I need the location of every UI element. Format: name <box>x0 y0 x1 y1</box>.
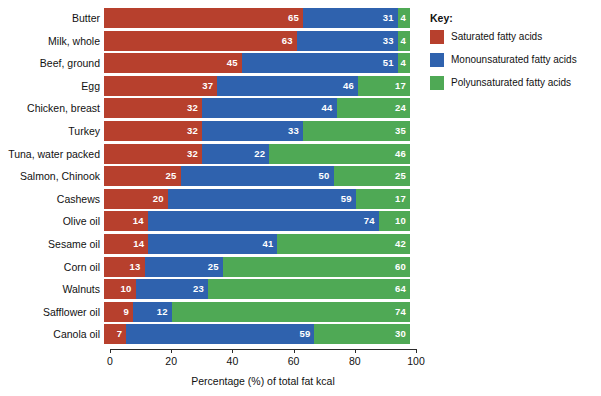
segment-value-label: 14 <box>133 216 148 226</box>
segment-monounsaturated: 41 <box>148 234 277 254</box>
segment-polyunsaturated: 60 <box>223 257 410 277</box>
chart-row: Canola oil75930 <box>0 324 420 344</box>
segment-polyunsaturated: 4 <box>398 53 410 73</box>
legend-items: Saturated fatty acidsMonounsaturated fat… <box>430 30 598 90</box>
x-tick-label: 40 <box>227 355 239 367</box>
category-label: Walnuts <box>0 283 104 295</box>
segment-value-label: 50 <box>319 171 334 181</box>
segment-saturated: 9 <box>104 302 133 322</box>
segment-value-label: 25 <box>208 262 223 272</box>
chart-row: Olive oil147410 <box>0 211 420 231</box>
x-axis-line <box>110 349 416 350</box>
segment-monounsaturated: 31 <box>303 8 398 28</box>
segment-value-label: 7 <box>117 329 126 339</box>
stacked-bar-chart: Butter65314Milk, whole63334Beef, ground4… <box>0 0 601 396</box>
segment-value-label: 35 <box>395 126 410 136</box>
stacked-bar: 323335 <box>104 121 410 141</box>
x-tick-mark <box>232 349 233 353</box>
category-label: Chicken, breast <box>0 102 104 114</box>
chart-row: Safflower oil91274 <box>0 302 420 322</box>
legend-item-label: Monounsaturated fatty acids <box>451 54 577 66</box>
category-label: Cashews <box>0 193 104 205</box>
segment-monounsaturated: 74 <box>148 211 379 231</box>
segment-polyunsaturated: 74 <box>172 302 410 322</box>
stacked-bar: 322246 <box>104 144 410 164</box>
category-label: Sesame oil <box>0 238 104 250</box>
segment-polyunsaturated: 4 <box>398 31 410 51</box>
segment-polyunsaturated: 4 <box>398 8 410 28</box>
segment-value-label: 22 <box>254 149 269 159</box>
chart-row: Cashews205917 <box>0 189 420 209</box>
chart-row: Tuna, water packed322246 <box>0 144 420 164</box>
segment-value-label: 20 <box>153 194 168 204</box>
stacked-bar: 102364 <box>104 279 410 299</box>
segment-monounsaturated: 50 <box>181 166 334 186</box>
category-label: Milk, whole <box>0 35 104 47</box>
segment-monounsaturated: 33 <box>202 121 303 141</box>
x-tick-label: 100 <box>407 355 425 367</box>
segment-value-label: 4 <box>400 58 409 68</box>
segment-value-label: 37 <box>202 81 217 91</box>
segment-polyunsaturated: 30 <box>314 324 410 344</box>
segment-value-label: 4 <box>400 36 409 46</box>
chart-row: Walnuts102364 <box>0 279 420 299</box>
segment-monounsaturated: 12 <box>133 302 172 322</box>
chart-row: Chicken, breast324424 <box>0 98 420 118</box>
segment-polyunsaturated: 46 <box>269 144 410 164</box>
segment-monounsaturated: 22 <box>202 144 269 164</box>
segment-value-label: 65 <box>288 13 303 23</box>
segment-saturated: 13 <box>104 257 145 277</box>
segment-value-label: 45 <box>227 58 242 68</box>
category-label: Corn oil <box>0 261 104 273</box>
segment-value-label: 10 <box>395 216 410 226</box>
chart-row: Beef, ground45514 <box>0 53 420 73</box>
chart-row: Egg374617 <box>0 76 420 96</box>
segment-monounsaturated: 59 <box>168 189 356 209</box>
segment-value-label: 32 <box>187 126 202 136</box>
chart-row: Butter65314 <box>0 8 420 28</box>
stacked-bar: 65314 <box>104 8 410 28</box>
segment-value-label: 41 <box>263 239 278 249</box>
chart-row: Sesame oil144142 <box>0 234 420 254</box>
segment-value-label: 46 <box>343 81 358 91</box>
segment-saturated: 45 <box>104 53 242 73</box>
chart-row: Milk, whole63334 <box>0 31 420 51</box>
segment-value-label: 4 <box>401 13 410 23</box>
legend-item: Polyunsaturated fatty acids <box>430 76 598 90</box>
segment-value-label: 63 <box>282 36 297 46</box>
category-label: Egg <box>0 80 104 92</box>
legend-item: Monounsaturated fatty acids <box>430 53 598 67</box>
category-label: Turkey <box>0 125 104 137</box>
stacked-bar: 144142 <box>104 234 410 254</box>
segment-value-label: 59 <box>341 194 356 204</box>
segment-value-label: 17 <box>395 194 410 204</box>
category-label: Safflower oil <box>0 306 104 318</box>
segment-saturated: 65 <box>104 8 303 28</box>
category-label: Butter <box>0 12 104 24</box>
legend-title: Key: <box>430 12 598 24</box>
segment-value-label: 14 <box>133 239 148 249</box>
category-label: Olive oil <box>0 215 104 227</box>
segment-value-label: 42 <box>395 239 410 249</box>
segment-value-label: 25 <box>166 171 181 181</box>
segment-polyunsaturated: 35 <box>303 121 410 141</box>
segment-value-label: 74 <box>395 307 410 317</box>
segment-value-label: 51 <box>383 58 398 68</box>
stacked-bar: 75930 <box>104 324 410 344</box>
segment-monounsaturated: 46 <box>217 76 358 96</box>
segment-saturated: 32 <box>104 98 202 118</box>
chart-legend: Key: Saturated fatty acidsMonounsaturate… <box>430 12 598 99</box>
legend-item-label: Saturated fatty acids <box>451 31 542 43</box>
segment-monounsaturated: 51 <box>242 53 398 73</box>
category-label: Canola oil <box>0 328 104 340</box>
segment-value-label: 23 <box>193 284 208 294</box>
segment-value-label: 10 <box>121 284 136 294</box>
segment-saturated: 7 <box>104 324 126 344</box>
stacked-bar: 45514 <box>104 53 410 73</box>
stacked-bar: 91274 <box>104 302 410 322</box>
chart-row: Turkey323335 <box>0 121 420 141</box>
segment-saturated: 63 <box>104 31 297 51</box>
segment-value-label: 33 <box>288 126 303 136</box>
legend-color-swatch <box>430 76 444 90</box>
segment-monounsaturated: 23 <box>136 279 209 299</box>
